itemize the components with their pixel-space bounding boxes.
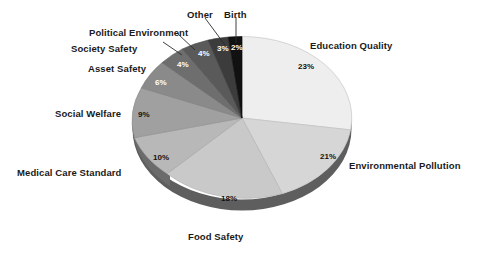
slice-value-society-safety: 4% — [177, 60, 189, 69]
pie-chart: Education Quality Environmental Pollutio… — [0, 0, 482, 254]
slice-value-medical-care-standard: 10% — [153, 153, 169, 162]
slice-label-society-safety: Society Safety — [71, 43, 137, 54]
slice-label-environmental-pollution: Environmental Pollution — [349, 160, 461, 171]
slice-value-other: 3% — [217, 44, 229, 53]
slice-label-political-environment: Political Environment — [89, 27, 188, 38]
slice-value-birth: 2% — [231, 43, 243, 52]
slice-label-other: Other — [187, 9, 213, 20]
slice-value-education-quality: 23% — [298, 62, 314, 71]
slice-label-asset-safety: Asset Safety — [88, 63, 146, 74]
slice-value-political-environment: 4% — [198, 49, 210, 58]
slice-value-food-safety: 18% — [221, 194, 237, 203]
pie-chart-graphic — [0, 0, 482, 254]
slice-value-asset-safety: 6% — [155, 78, 167, 87]
slice-label-education-quality: Education Quality — [310, 40, 392, 51]
leader-line-political-environment — [163, 42, 182, 55]
slice-label-birth: Birth — [224, 9, 247, 20]
slice-value-social-welfare: 9% — [138, 110, 150, 119]
slice-label-social-welfare: Social Welfare — [55, 108, 121, 119]
slice-value-environmental-pollution: 21% — [320, 152, 336, 161]
slice-label-food-safety: Food Safety — [188, 231, 243, 242]
slice-label-medical-care-standard: Medical Care Standard — [17, 167, 122, 178]
